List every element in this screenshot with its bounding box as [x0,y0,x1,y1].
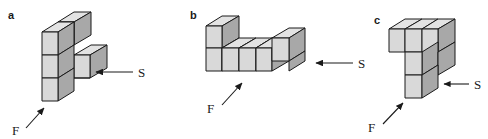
side-label-c: S [474,77,481,92]
cube-figures-panel: a [0,0,488,139]
figure-c-top-row [389,19,455,52]
side-label-a: S [138,65,145,80]
side-label-b: S [358,56,365,71]
front-label-b: F [207,101,214,116]
front-label-c: F [368,120,375,135]
panel-label-c: c [374,14,380,26]
cube-figures-svg: a [0,0,488,139]
front-label-a: F [12,123,19,138]
panel-label-a: a [8,9,15,21]
panel-label-b: b [190,9,197,21]
